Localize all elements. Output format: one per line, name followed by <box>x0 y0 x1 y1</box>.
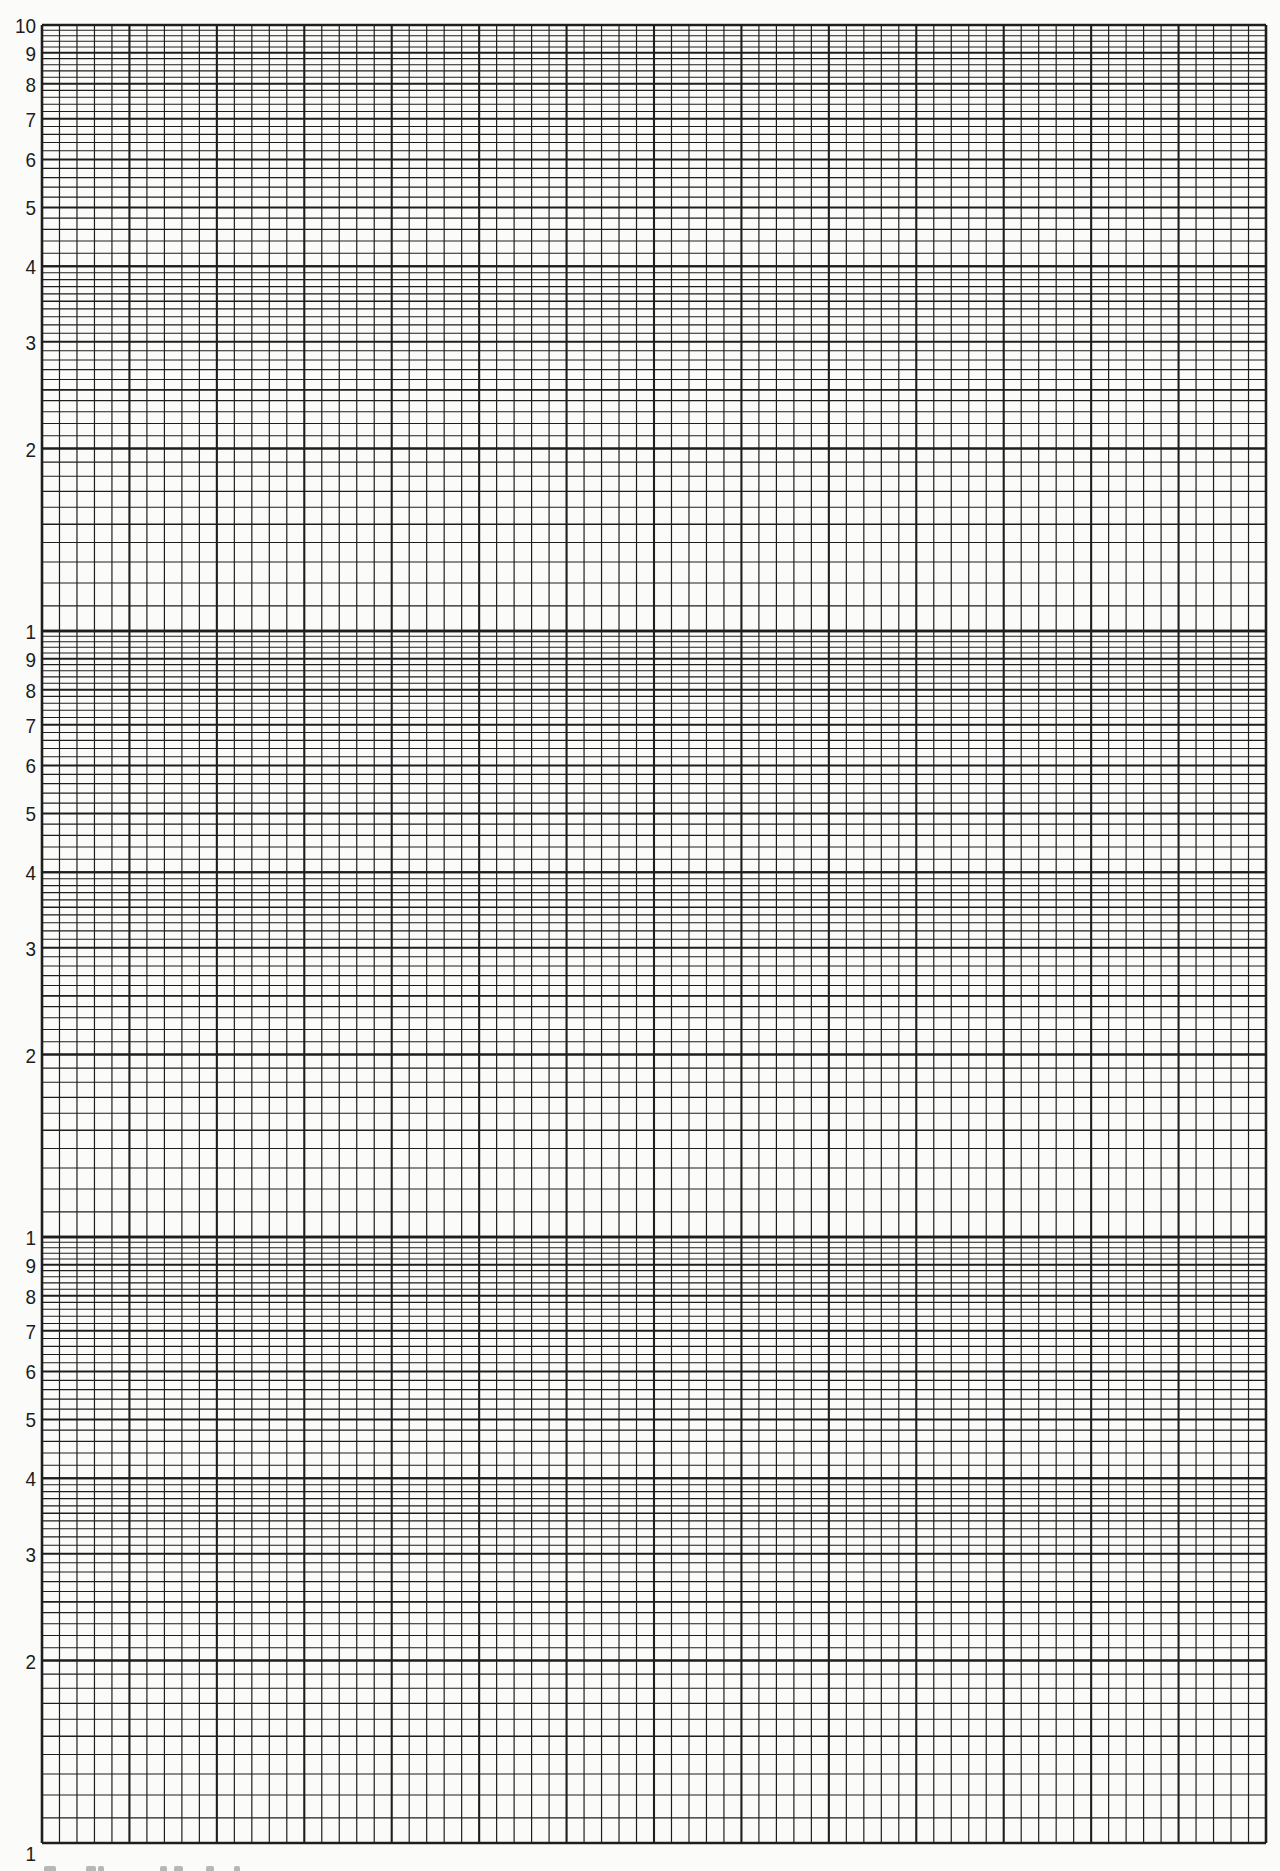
y-tick-label: 9 <box>5 42 36 63</box>
y-tick-label: 10 <box>5 15 36 36</box>
y-tick-label: 4 <box>5 862 36 883</box>
y-tick-label: 3 <box>5 937 36 958</box>
y-tick-label: 2 <box>5 1650 36 1671</box>
y-tick-label: 8 <box>5 1285 36 1306</box>
y-tick-label: 5 <box>5 197 36 218</box>
y-tick-label: 4 <box>5 1468 36 1489</box>
semi-log-grid <box>0 0 1280 1871</box>
y-tick-label: 1 <box>5 1843 36 1864</box>
y-tick-label: 6 <box>5 755 36 776</box>
y-tick-label: 3 <box>5 1543 36 1564</box>
y-tick-label: 9 <box>5 648 36 669</box>
y-tick-label: 5 <box>5 1409 36 1430</box>
y-tick-label: 8 <box>5 679 36 700</box>
y-tick-label: 1 <box>5 1227 36 1248</box>
graph-paper-sheet: 10987654321987654321987654321 <box>0 0 1280 1871</box>
y-tick-label: 3 <box>5 331 36 352</box>
y-tick-label: 6 <box>5 149 36 170</box>
y-tick-label: 8 <box>5 73 36 94</box>
cropped-caption <box>38 1862 278 1871</box>
y-tick-label: 7 <box>5 108 36 129</box>
y-tick-label: 7 <box>5 1320 36 1341</box>
y-tick-label: 1 <box>5 621 36 642</box>
y-tick-label: 7 <box>5 714 36 735</box>
y-tick-label: 6 <box>5 1361 36 1382</box>
y-tick-label: 4 <box>5 256 36 277</box>
y-tick-label: 5 <box>5 803 36 824</box>
y-tick-label: 9 <box>5 1254 36 1275</box>
y-tick-label: 2 <box>5 1044 36 1065</box>
y-tick-label: 2 <box>5 438 36 459</box>
